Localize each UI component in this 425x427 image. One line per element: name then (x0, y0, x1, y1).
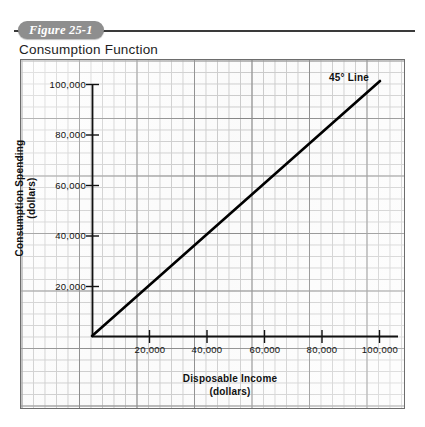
y-tick-label-60000: 60,000 (38, 180, 86, 191)
figure-header: Figure 25-1 (0, 20, 425, 42)
y-tick-label-100000: 100,000 (38, 79, 86, 90)
x-axis-units-text: (dollars) (209, 386, 250, 397)
y-tick-label-80000: 80,000 (38, 129, 86, 140)
y-tick-label-20000: 20,000 (38, 281, 86, 292)
figure-title: Consumption Function (19, 42, 158, 57)
x-tick-label-80000: 80,000 (292, 344, 352, 355)
x-tick-label-20000: 20,000 (120, 344, 180, 355)
y-axis-title-text: Consumption Spending (14, 140, 25, 257)
figure-page: Figure 25-1 Consumption Function 100,000… (0, 0, 425, 427)
forty-five-degree-line-label: 45° Line (329, 72, 369, 83)
y-tick-label-40000: 40,000 (38, 230, 86, 241)
x-axis-title-text: Disposable Income (183, 373, 278, 384)
figure-number-badge: Figure 25-1 (18, 21, 104, 39)
x-tick-label-60000: 60,000 (235, 344, 295, 355)
y-axis-title: Consumption Spending (dollars) (14, 128, 38, 268)
x-axis-title: Disposable Income (dollars) (155, 373, 305, 398)
x-tick-label-40000: 40,000 (177, 344, 237, 355)
y-axis-units-text: (dollars) (26, 177, 37, 218)
x-tick-label-100000: 100,000 (350, 344, 410, 355)
